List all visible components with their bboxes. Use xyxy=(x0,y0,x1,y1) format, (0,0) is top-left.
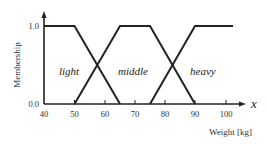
x-tick-label: 60 xyxy=(101,109,110,119)
x-variable-label: x xyxy=(250,96,257,111)
y-axis-arrow-icon xyxy=(42,11,47,18)
x-tick-label: 90 xyxy=(191,109,200,119)
x-tick-label: 40 xyxy=(40,109,49,119)
x-tick-label: 50 xyxy=(70,109,79,119)
y-tick-label-0: 0.0 xyxy=(28,99,39,109)
set-label-middle: middle xyxy=(118,65,148,77)
x-axis-arrow-icon xyxy=(239,102,246,107)
y-tick-label-1: 1.0 xyxy=(28,21,39,31)
x-tick-label: 100 xyxy=(220,109,233,119)
x-axis-title: Weight [kg] xyxy=(209,127,252,137)
set-label-light: light xyxy=(59,65,80,77)
y-axis-title: Membership xyxy=(12,42,22,88)
x-tick-label: 80 xyxy=(161,109,170,119)
membership-chart: 1.0 0.0 Membership 40 50 60 70 80 90 100… xyxy=(0,0,269,144)
x-tick-label: 70 xyxy=(131,109,140,119)
set-label-heavy: heavy xyxy=(190,65,216,77)
